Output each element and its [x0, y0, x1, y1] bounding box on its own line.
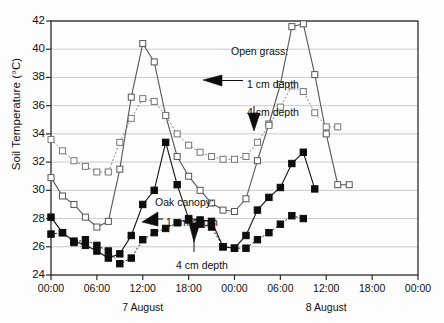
soil-temperature-chart: Soil Temperature (°C) 242628303234363840… — [0, 0, 444, 323]
data-point — [231, 245, 237, 251]
data-point — [105, 255, 111, 261]
series-line-1 — [51, 86, 338, 172]
data-point — [117, 139, 123, 145]
data-point — [289, 213, 295, 219]
data-point — [71, 158, 77, 164]
oak-canopy-4cm-label: 4 cm depth — [176, 259, 228, 271]
x-tick-label: 00:00 — [392, 282, 444, 294]
data-point — [300, 149, 306, 155]
data-point — [186, 142, 192, 148]
data-point — [94, 224, 100, 230]
x-tick-label: 12:00 — [300, 282, 352, 294]
data-point — [277, 221, 283, 227]
data-point — [151, 59, 157, 65]
data-point — [300, 89, 306, 95]
data-point — [197, 149, 203, 155]
data-point — [346, 182, 352, 188]
x-tick-label: 18:00 — [346, 282, 398, 294]
y-tick-label: 28 — [3, 212, 45, 224]
data-point — [312, 72, 318, 78]
data-point — [59, 229, 65, 235]
data-point — [140, 41, 146, 47]
data-point — [266, 194, 272, 200]
data-point — [117, 261, 123, 267]
plot-canvas — [0, 0, 444, 323]
data-point — [59, 148, 65, 154]
data-point — [254, 158, 260, 164]
data-point — [48, 175, 54, 181]
data-point — [323, 131, 329, 137]
x-tick-label: 00:00 — [25, 282, 77, 294]
data-point — [243, 245, 249, 251]
x-tick-label: 12:00 — [117, 282, 169, 294]
data-point — [163, 113, 169, 119]
data-point — [220, 156, 226, 162]
data-point — [128, 232, 134, 238]
data-point — [300, 215, 306, 221]
data-point — [151, 187, 157, 193]
y-tick-label: 42 — [3, 14, 45, 26]
data-point — [300, 21, 306, 27]
data-point — [254, 207, 260, 213]
y-tick-label: 30 — [3, 183, 45, 195]
x-tick-label: 06:00 — [254, 282, 306, 294]
data-point — [82, 237, 88, 243]
data-point — [82, 163, 88, 169]
data-point — [48, 214, 54, 220]
data-point — [117, 251, 123, 257]
data-point — [71, 201, 77, 207]
y-tick-label: 38 — [3, 70, 45, 82]
y-tick-label: 36 — [3, 99, 45, 111]
data-point — [128, 94, 134, 100]
data-point — [105, 248, 111, 254]
data-point — [335, 124, 341, 130]
data-point — [105, 218, 111, 224]
arrow-open-grass-1cm — [203, 75, 222, 86]
data-point — [243, 153, 249, 159]
x-tick-label: 18:00 — [163, 282, 215, 294]
x-tick-label: 06:00 — [71, 282, 123, 294]
data-point — [323, 124, 329, 130]
data-point — [197, 187, 203, 193]
data-point — [140, 96, 146, 102]
data-point — [94, 169, 100, 175]
data-point — [277, 184, 283, 190]
data-point — [266, 122, 272, 128]
data-point — [59, 193, 65, 199]
data-point — [128, 115, 134, 121]
y-tick-label: 26 — [3, 240, 45, 252]
data-point — [151, 229, 157, 235]
data-point — [232, 156, 238, 162]
y-tick-label: 40 — [3, 42, 45, 54]
data-point — [117, 166, 123, 172]
open-grass-4cm-label: 4 cm depth — [247, 106, 299, 118]
data-point — [174, 131, 180, 137]
data-point — [71, 239, 77, 245]
data-point — [335, 182, 341, 188]
y-tick-label: 24 — [3, 268, 45, 280]
data-point — [289, 24, 295, 30]
open-grass-group-label: Open grass: — [231, 45, 288, 57]
data-point — [232, 209, 238, 215]
arrow-oak-1cm — [142, 212, 158, 226]
data-point — [140, 237, 146, 243]
data-point — [312, 186, 318, 192]
x-tick-label: 00:00 — [209, 282, 261, 294]
open-grass-1cm-label: 1 cm depth — [247, 78, 299, 90]
data-point — [266, 229, 272, 235]
data-point — [94, 242, 100, 248]
data-point — [48, 137, 54, 143]
data-point — [48, 231, 54, 237]
data-point — [105, 169, 111, 175]
data-point — [243, 232, 249, 238]
oak-canopy-1cm-label: 1 cm depth — [166, 216, 218, 228]
data-point — [186, 173, 192, 179]
data-point — [209, 153, 215, 159]
y-tick-label: 34 — [3, 127, 45, 139]
oak-canopy-group-label: Oak canopy: — [155, 196, 214, 208]
data-point — [312, 110, 318, 116]
data-point — [151, 98, 157, 104]
data-point — [174, 181, 180, 187]
data-point — [254, 139, 260, 145]
data-point — [82, 214, 88, 220]
